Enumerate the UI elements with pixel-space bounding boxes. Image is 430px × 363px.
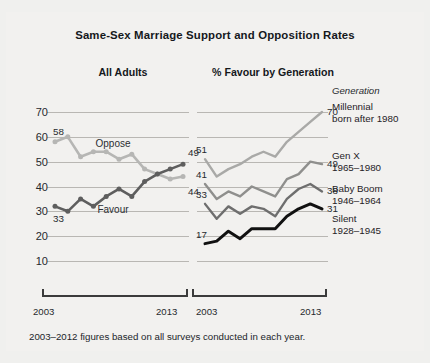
series-start-label: 33 bbox=[196, 189, 207, 200]
series-line-gen-x bbox=[205, 162, 322, 199]
chart-right-by-generation: 517041493338173120032013GenerationMillen… bbox=[0, 0, 430, 363]
legend-generation-name: Gen X bbox=[332, 150, 360, 161]
x-axis-tick-label-end: 2013 bbox=[300, 306, 321, 317]
x-axis-bracket bbox=[193, 289, 326, 296]
legend-generation-name: Millennial bbox=[332, 101, 373, 112]
series-start-label: 41 bbox=[196, 169, 207, 180]
legend-generation-years: 1946–1964 bbox=[332, 195, 382, 206]
x-axis-tick-label-start: 2003 bbox=[196, 306, 217, 317]
legend-generation-name: Baby Boom bbox=[332, 183, 383, 194]
legend-generation-years: born after 1980 bbox=[332, 113, 399, 124]
legend-generation-years: 1928–1945 bbox=[332, 225, 382, 236]
series-line-baby-boom bbox=[205, 184, 322, 219]
figure-footnote: 2003–2012 figures based on all surveys c… bbox=[29, 331, 305, 342]
legend-generation-name: Silent bbox=[332, 213, 357, 224]
series-start-label: 51 bbox=[196, 144, 207, 155]
series-start-label: 17 bbox=[196, 229, 207, 240]
legend-header: Generation bbox=[332, 85, 379, 96]
chart-figure: Same-Sex Marriage Support and Opposition… bbox=[0, 0, 430, 363]
legend-generation-years: 1965–1980 bbox=[332, 162, 382, 173]
